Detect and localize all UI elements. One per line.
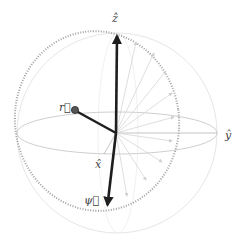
psi-vector-label: ψ⃗ [84, 194, 99, 207]
x-axis-label: x̂ [95, 158, 102, 171]
ghost-vector [116, 93, 172, 133]
ghost-vector [116, 117, 174, 133]
z-axis-label: ẑ [111, 12, 118, 25]
r-vector-label: r⃗ [59, 101, 71, 114]
ghost-vector [116, 133, 127, 196]
z-axis-arrow [116, 36, 117, 133]
y-axis-label: ŷ [224, 129, 232, 142]
r-vector [76, 111, 116, 133]
psi-vector [108, 133, 117, 205]
bloch-sphere-diagram: ẑ r⃗ x̂ ψ⃗ ŷ [0, 0, 247, 247]
ghost-vector [116, 133, 162, 162]
dotted-great-circle [3, 20, 190, 221]
ghost-vector [116, 133, 172, 141]
r-vector-tip-ball [71, 106, 78, 113]
ghost-vector [116, 42, 136, 133]
